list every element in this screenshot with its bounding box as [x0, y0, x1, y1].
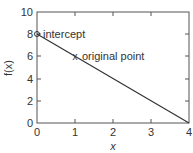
svg-text:4: 4: [27, 73, 33, 85]
original-point-label: original point: [82, 50, 144, 62]
svg-text:1: 1: [72, 126, 78, 138]
svg-text:0: 0: [34, 126, 40, 138]
svg-text:2: 2: [27, 95, 33, 107]
x-tick-labels: 0 1 2 3 4: [34, 126, 192, 138]
x-ticks: [75, 12, 151, 123]
svg-text:8: 8: [27, 28, 33, 40]
chart: 0 1 2 3 4 0 2 4 6 8 10 x f(x) intercept …: [0, 0, 193, 153]
svg-text:3: 3: [148, 126, 154, 138]
svg-text:6: 6: [27, 50, 33, 62]
svg-text:2: 2: [110, 126, 116, 138]
y-ticks: [37, 34, 189, 101]
data-line: [37, 34, 189, 123]
svg-text:4: 4: [186, 126, 192, 138]
x-axis-label: x: [109, 140, 116, 152]
svg-text:10: 10: [21, 6, 33, 18]
original-point-marker: x: [73, 51, 78, 62]
intercept-label: intercept: [43, 28, 85, 40]
svg-text:0: 0: [27, 117, 33, 129]
y-axis-label: f(x): [2, 60, 14, 76]
y-tick-labels: 0 2 4 6 8 10: [21, 6, 33, 129]
